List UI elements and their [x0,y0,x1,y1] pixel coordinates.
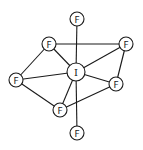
atom-label: F [123,40,128,50]
bond-f7-f5 [16,80,60,110]
atom-i: I [67,63,85,81]
atom-label: F [74,129,79,139]
molecule-diagram: IFFFFFFF [0,0,143,150]
atom-f5: F [9,73,23,87]
atom-label: F [74,15,79,25]
atom-label: I [74,67,78,78]
atom-label: F [46,40,51,50]
atom-label: F [113,80,118,90]
atom-f6: F [109,77,123,91]
atom-label: F [13,76,18,86]
atom-f3: F [42,37,56,51]
bond-f6-f7 [60,84,116,110]
atom-f7: F [53,103,67,117]
atom-label: F [57,106,62,116]
atom-f4: F [119,37,133,51]
atoms-layer: IFFFFFFF [9,12,133,140]
atom-f1: F [70,12,84,26]
atom-f2: F [70,126,84,140]
molecule-canvas: IFFFFFFF [0,0,143,150]
